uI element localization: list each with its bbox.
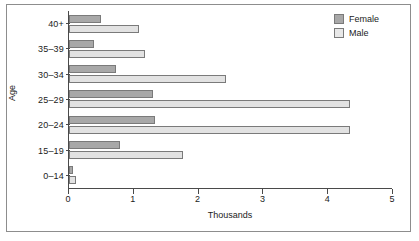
bar-group bbox=[69, 140, 392, 160]
y-axis-tick bbox=[66, 175, 70, 176]
legend-item-male[interactable]: Male bbox=[334, 26, 400, 40]
y-axis-tick bbox=[66, 99, 70, 100]
bar-female[interactable] bbox=[69, 15, 101, 23]
y-axis-label-25-29: 25–29 bbox=[14, 90, 64, 110]
x-axis-tick-label: 5 bbox=[380, 194, 404, 204]
legend-label-female: Female bbox=[349, 14, 379, 24]
x-axis-tick-label: 2 bbox=[186, 194, 210, 204]
legend-label-male: Male bbox=[349, 28, 369, 38]
y-axis-tick bbox=[66, 74, 70, 75]
y-axis-label-35-39: 35–39 bbox=[14, 39, 64, 59]
bar-male[interactable] bbox=[69, 75, 226, 83]
legend-swatch-female-icon bbox=[334, 14, 344, 24]
y-axis-labels: 40+ 35–39 30–34 25–29 20–24 15–19 0–14 bbox=[14, 11, 64, 189]
y-axis-tick bbox=[66, 48, 70, 49]
legend-item-female[interactable]: Female bbox=[334, 12, 400, 26]
y-axis-tick bbox=[66, 124, 70, 125]
bar-group bbox=[69, 165, 392, 185]
y-axis-label-20-24: 20–24 bbox=[14, 115, 64, 135]
bar-female[interactable] bbox=[69, 65, 116, 73]
y-axis-tick bbox=[66, 150, 70, 151]
bar-male[interactable] bbox=[69, 126, 350, 134]
x-axis-tick-label: 4 bbox=[315, 194, 339, 204]
y-axis-label-15-19: 15–19 bbox=[14, 141, 64, 161]
bar-male[interactable] bbox=[69, 151, 183, 159]
bar-female[interactable] bbox=[69, 90, 153, 98]
x-axis-title: Thousands bbox=[68, 210, 392, 220]
bar-group bbox=[69, 89, 392, 109]
bar-group bbox=[69, 39, 392, 59]
bar-male[interactable] bbox=[69, 25, 139, 33]
x-axis-tick-label: 1 bbox=[121, 194, 145, 204]
bar-male[interactable] bbox=[69, 100, 350, 108]
bar-female[interactable] bbox=[69, 116, 155, 124]
bar-group bbox=[69, 64, 392, 84]
y-axis-tick bbox=[66, 23, 70, 24]
legend: Female Male bbox=[334, 12, 400, 40]
x-axis-tick-label: 0 bbox=[56, 194, 80, 204]
bar-group bbox=[69, 115, 392, 135]
bar-female[interactable] bbox=[69, 141, 120, 149]
x-axis-labels: 012345 bbox=[68, 194, 392, 208]
bar-male[interactable] bbox=[69, 50, 145, 58]
y-axis-label-0-14: 0–14 bbox=[14, 166, 64, 186]
x-axis-tick-label: 3 bbox=[250, 194, 274, 204]
bar-female[interactable] bbox=[69, 166, 73, 174]
bar-female[interactable] bbox=[69, 40, 94, 48]
legend-swatch-male-icon bbox=[334, 28, 344, 38]
chart-figure: Age 40+ 35–39 30–34 25–29 20–24 15–19 0–… bbox=[0, 0, 419, 241]
y-axis-label-40plus: 40+ bbox=[14, 14, 64, 34]
bar-male[interactable] bbox=[69, 176, 76, 184]
y-axis-label-30-34: 30–34 bbox=[14, 65, 64, 85]
